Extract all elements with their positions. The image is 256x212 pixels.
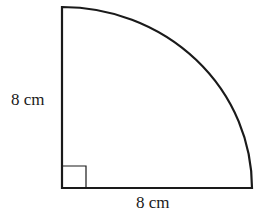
vertical-side-label: 8 cm [11,91,45,108]
horizontal-side-label: 8 cm [136,194,170,211]
quarter-circle-outline [62,7,252,188]
